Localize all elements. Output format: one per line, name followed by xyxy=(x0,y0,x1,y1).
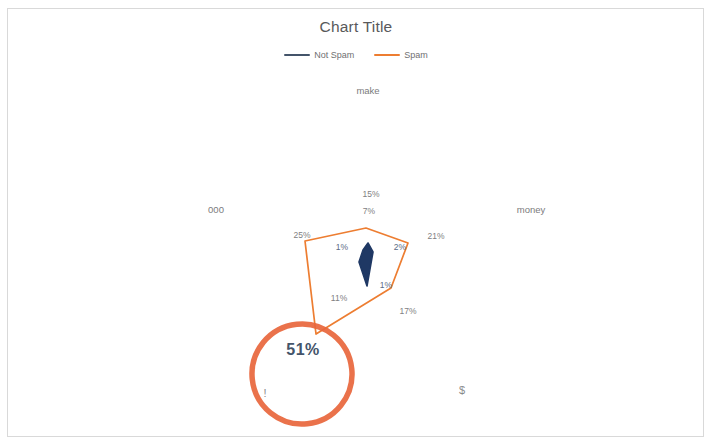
data-label-spam-make: 15% xyxy=(362,189,379,199)
page-canvas: Chart Title Not Spam Spam make money $ ! xyxy=(0,0,712,445)
data-label-spam-exclamation-highlight: 51% xyxy=(286,341,320,359)
series-polygon-not-spam xyxy=(359,243,373,286)
category-label-000: 000 xyxy=(208,204,224,215)
series-polygon-spam xyxy=(305,228,408,334)
radar-chart[interactable]: Chart Title Not Spam Spam make money $ ! xyxy=(0,0,712,445)
category-label-money: money xyxy=(517,204,546,215)
highlight-circle-annotation xyxy=(247,319,357,429)
category-label-make: make xyxy=(356,85,379,96)
data-label-spam-dollar: 17% xyxy=(399,306,416,316)
data-label-not-spam-dollar: 1% xyxy=(380,280,392,290)
category-label-exclamation: ! xyxy=(263,387,266,399)
data-label-spam-money: 21% xyxy=(427,231,444,241)
category-label-dollar: $ xyxy=(459,384,465,396)
data-label-not-spam-make: 7% xyxy=(363,206,375,216)
data-label-spam-000: 25% xyxy=(293,230,310,240)
data-label-spam-exclamation: 11% xyxy=(331,293,347,303)
data-label-not-spam-money: 2% xyxy=(394,242,406,252)
plot-svg xyxy=(0,0,712,445)
data-label-not-spam-000: 1% xyxy=(336,242,348,252)
